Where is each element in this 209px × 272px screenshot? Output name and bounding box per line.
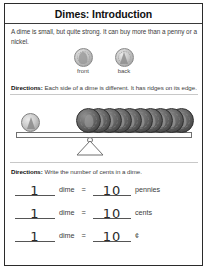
balance-scale-illustration — [10, 100, 199, 158]
answer-right-unit: cents — [131, 208, 156, 217]
directions-line-2: Directions: Write the number of cents in… — [11, 168, 199, 175]
coin-front-cell: front — [74, 48, 93, 74]
scale-penny-stack — [76, 108, 194, 133]
answer-blank-count[interactable]: 1 — [15, 205, 55, 219]
coin-back-label: back — [118, 68, 131, 74]
coin-back-cell: back — [115, 48, 134, 74]
answer-blank-value[interactable]: 10 — [93, 205, 131, 219]
divider-below-scale — [10, 162, 198, 163]
answer-count-value: 1 — [30, 184, 39, 197]
answer-left-unit: dime — [55, 208, 79, 217]
dime-front-icon — [74, 48, 93, 67]
answer-count-value: 1 — [30, 230, 39, 243]
answer-blank-count[interactable]: 1 — [15, 228, 55, 242]
answer-count-value: 1 — [30, 207, 39, 220]
answer-rows: 1 dime = 10 pennies 1 dime = 10 cents 1 … — [15, 182, 195, 251]
directions-2-label: Directions: — [11, 168, 43, 175]
coin-front-label: front — [77, 68, 89, 74]
page-title: Dimes: Introduction — [55, 8, 152, 20]
worksheet-page: Dimes: Introduction A dime is small, but… — [4, 3, 203, 266]
intro-paragraph: A dime is small, but quite strong. It ca… — [11, 27, 197, 46]
directions-1-text: Each side of a dime is different. It has… — [43, 84, 197, 91]
answer-blank-value[interactable]: 10 — [93, 228, 131, 242]
torch-shape — [27, 117, 35, 129]
directions-1-label: Directions: — [11, 84, 43, 91]
answer-right-unit: pennies — [131, 185, 164, 194]
equals-sign: = — [79, 231, 93, 240]
coin-faces-group: front back — [5, 48, 202, 74]
penny-icon — [76, 108, 101, 133]
torch-shape — [120, 52, 128, 64]
answer-row: 1 dime = 10 cents — [15, 205, 195, 228]
dime-back-icon — [115, 48, 134, 67]
profile-bust-shape — [79, 52, 88, 64]
equals-sign: = — [79, 208, 93, 217]
scale-fulcrum-icon — [76, 141, 104, 156]
worksheet-title-band: Dimes: Introduction — [5, 4, 202, 24]
equals-sign: = — [79, 185, 93, 194]
answer-left-unit: dime — [55, 185, 79, 194]
answer-right-unit: ¢ — [131, 231, 143, 240]
profile-bust-shape — [84, 114, 93, 127]
directions-2-text: Write the number of cents in a dime. — [43, 168, 142, 175]
scale-dime-icon — [21, 113, 40, 132]
scale-beam — [16, 132, 192, 138]
answer-value: 10 — [103, 207, 122, 220]
directions-line-1: Directions: Each side of a dime is diffe… — [11, 84, 199, 91]
answer-value: 10 — [103, 184, 122, 197]
divider-above-scale — [10, 94, 198, 95]
answer-blank-count[interactable]: 1 — [15, 182, 55, 196]
answer-blank-value[interactable]: 10 — [93, 182, 131, 196]
answer-value: 10 — [103, 230, 122, 243]
answer-row: 1 dime = 10 pennies — [15, 182, 195, 205]
answer-row: 1 dime = 10 ¢ — [15, 228, 195, 251]
answer-left-unit: dime — [55, 231, 79, 240]
